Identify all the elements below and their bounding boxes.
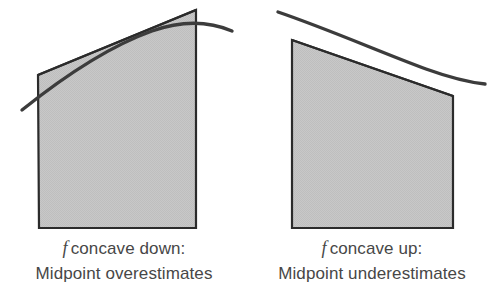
caption-line-2: Midpoint underestimates bbox=[248, 261, 496, 286]
midpoint-concavity-figure: fconcave down: Midpoint overestimates fc… bbox=[0, 0, 496, 292]
caption-line-1-text: concave down: bbox=[71, 239, 186, 258]
caption-line-1-text: concave up: bbox=[330, 239, 423, 258]
panel-concave-up: fconcave up: Midpoint underestimates bbox=[248, 0, 496, 292]
caption-concave-up: fconcave up: Midpoint underestimates bbox=[248, 236, 496, 286]
caption-concave-down: fconcave down: Midpoint overestimates bbox=[0, 236, 248, 286]
caption-line-1: fconcave down: bbox=[0, 236, 248, 261]
panel-concave-down: fconcave down: Midpoint overestimates bbox=[0, 0, 248, 292]
concave-up-diagram bbox=[248, 0, 496, 238]
function-symbol: f bbox=[322, 238, 330, 258]
caption-line-2: Midpoint overestimates bbox=[0, 261, 248, 286]
concave-down-diagram bbox=[0, 0, 248, 238]
caption-line-1: fconcave up: bbox=[248, 236, 496, 261]
function-symbol: f bbox=[63, 238, 71, 258]
